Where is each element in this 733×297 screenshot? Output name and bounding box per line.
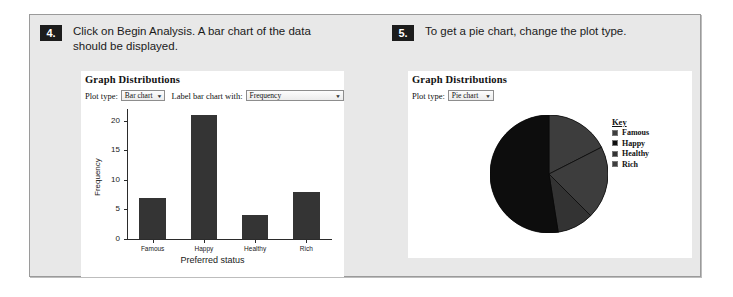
step-4-header: 4. Click on Begin Analysis. A bar chart … (30, 15, 380, 53)
bar-chart-bar (242, 215, 269, 239)
step-4-instruction-text: Click on Begin Analysis. A bar chart of … (73, 24, 318, 53)
bar-chart-y-tick-mark (124, 209, 127, 210)
pie-slices (490, 115, 608, 233)
bar-chart-x-tick-mark (255, 240, 256, 243)
chevron-down-icon: ▼ (157, 93, 163, 98)
chevron-down-icon: ▼ (485, 93, 491, 98)
label-bar-chart-with-label: Label bar chart with: (171, 91, 242, 101)
pie-slice (490, 115, 558, 233)
pie-panel-controls: Plot type: Pie chart ▼ (408, 85, 692, 101)
plot-type-label: Plot type: (412, 91, 445, 101)
bar-panel-title: Graph Distributions (81, 71, 344, 85)
step-5-column: 5. To get a pie chart, change the plot t… (382, 15, 702, 41)
bar-chart-y-axis (127, 109, 128, 239)
step-5-header: 5. To get a pie chart, change the plot t… (382, 15, 702, 41)
bar-chart-x-tick-label: Happy (178, 245, 229, 253)
pie-legend-items: FamousHappyHealthyRich (612, 128, 649, 169)
legend-swatch-icon (612, 161, 618, 167)
label-bar-chart-with-select[interactable]: Frequency ▼ (246, 90, 344, 101)
bar-chart-x-tick-mark (204, 240, 205, 243)
bar-chart-y-tick-label: 0 (104, 235, 120, 243)
bar-chart-x-tick-label: Healthy (230, 245, 281, 253)
screenshot-root: 4. Click on Begin Analysis. A bar chart … (0, 0, 733, 297)
label-bar-chart-with-value: Frequency (250, 91, 282, 100)
bar-chart-x-tick-mark (153, 240, 154, 243)
pie-panel-title: Graph Distributions (408, 71, 692, 85)
step-5-number-badge: 5. (392, 25, 414, 41)
pie-legend-item: Rich (612, 160, 649, 169)
bar-chart-y-tick-label: 5 (104, 205, 120, 213)
bar-chart-y-tick-label: 15 (104, 146, 120, 154)
pie-legend-item: Happy (612, 139, 649, 148)
plot-type-select[interactable]: Bar chart ▼ (121, 90, 166, 101)
pie-legend-item-label: Famous (622, 128, 649, 137)
pie-legend: Key FamousHappyHealthyRich (612, 117, 649, 170)
bar-chart: Frequency05101520FamousHappyHealthyRichP… (85, 103, 340, 273)
bar-chart-y-tick-mark (124, 150, 127, 151)
instructions-box: 4. Click on Begin Analysis. A bar chart … (29, 14, 701, 277)
legend-swatch-icon (612, 130, 618, 136)
bar-chart-y-tick-label: 10 (104, 176, 120, 184)
bar-chart-bar (293, 192, 320, 239)
pie-legend-item-label: Rich (622, 160, 638, 169)
pie-legend-item: Famous (612, 128, 649, 137)
step-5-instruction-text: To get a pie chart, change the plot type… (425, 24, 626, 39)
bar-chart-x-tick-label: Famous (127, 245, 178, 253)
step-4-number-badge: 4. (40, 25, 62, 41)
bar-chart-x-axis (127, 239, 332, 240)
pie-legend-item-label: Happy (622, 139, 645, 148)
bar-panel-controls: Plot type: Bar chart ▼ Label bar chart w… (81, 85, 344, 101)
bar-chart-bar (191, 115, 218, 239)
pie-chart-app-panel: Graph Distributions Plot type: Pie chart… (408, 71, 692, 258)
bar-chart-y-tick-mark (124, 239, 127, 240)
bar-chart-bar (139, 198, 166, 239)
pie-graphic (490, 115, 608, 233)
plot-type-label: Plot type: (85, 91, 118, 101)
bar-chart-x-tick-mark (306, 240, 307, 243)
legend-swatch-icon (612, 140, 618, 146)
bar-chart-y-tick-label: 20 (104, 117, 120, 125)
pie-legend-title: Key (612, 117, 649, 127)
chevron-down-icon: ▼ (335, 93, 341, 98)
bar-chart-x-axis-label: Preferred status (85, 255, 340, 265)
pie-legend-item-label: Healthy (622, 149, 649, 158)
plot-type-select-value: Pie chart (452, 91, 478, 100)
pie-chart: Key FamousHappyHealthyRich (408, 105, 692, 255)
bar-chart-y-tick-mark (124, 180, 127, 181)
bar-chart-y-axis-label: Frequency (93, 158, 102, 196)
bar-chart-x-tick-label: Rich (281, 245, 332, 253)
bar-chart-y-tick-mark (124, 121, 127, 122)
legend-swatch-icon (612, 151, 618, 157)
step-4-column: 4. Click on Begin Analysis. A bar chart … (30, 15, 380, 53)
plot-type-select[interactable]: Pie chart ▼ (448, 90, 494, 101)
bar-chart-app-panel: Graph Distributions Plot type: Bar chart… (81, 71, 344, 277)
plot-type-select-value: Bar chart (125, 91, 153, 100)
pie-legend-item: Healthy (612, 149, 649, 158)
